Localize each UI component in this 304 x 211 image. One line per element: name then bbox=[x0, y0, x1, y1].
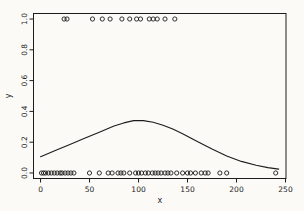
data-point-observations-y1 bbox=[173, 17, 177, 21]
data-point-observations-y0 bbox=[218, 171, 222, 175]
data-point-observations-y1 bbox=[65, 17, 69, 21]
data-point-observations-y1 bbox=[108, 17, 112, 21]
x-tick-label: 200 bbox=[229, 185, 244, 194]
y-tick-label: 0.8 bbox=[20, 44, 29, 56]
x-tick-label: 0 bbox=[38, 185, 43, 194]
data-point-observations-y0 bbox=[274, 171, 278, 175]
data-point-observations-y0 bbox=[206, 171, 210, 175]
y-tick-label: 0.2 bbox=[20, 136, 29, 148]
fitted-curve bbox=[41, 121, 279, 170]
data-point-observations-y0 bbox=[128, 171, 132, 175]
data-point-observations-y0 bbox=[97, 171, 101, 175]
scatter-plot-canvas: 0501001502002500.00.20.40.60.81.0xy bbox=[0, 0, 304, 211]
y-tick-label: 1.0 bbox=[20, 13, 29, 25]
data-point-observations-y1 bbox=[90, 17, 94, 21]
x-tick-label: 100 bbox=[131, 185, 146, 194]
y-axis-title: y bbox=[4, 93, 13, 98]
data-point-observations-y1 bbox=[100, 17, 104, 21]
x-axis-title: x bbox=[157, 196, 162, 205]
r-scatter-plot-figure: 0501001502002500.00.20.40.60.81.0xy bbox=[0, 0, 304, 211]
x-tick-label: 250 bbox=[278, 185, 293, 194]
y-tick-label: 0.4 bbox=[20, 105, 29, 117]
data-point-observations-y0 bbox=[193, 171, 197, 175]
data-point-observations-y0 bbox=[225, 171, 229, 175]
data-point-observations-y0 bbox=[72, 171, 76, 175]
data-point-observations-y1 bbox=[120, 17, 124, 21]
data-point-observations-y1 bbox=[163, 17, 167, 21]
data-point-observations-y0 bbox=[169, 171, 173, 175]
data-point-observations-y1 bbox=[128, 17, 132, 21]
data-point-observations-y0 bbox=[181, 171, 185, 175]
data-point-observations-y0 bbox=[188, 171, 192, 175]
data-point-observations-y0 bbox=[87, 171, 91, 175]
y-tick-label: 0.6 bbox=[20, 74, 29, 86]
data-point-observations-y0 bbox=[175, 171, 179, 175]
plot-box bbox=[34, 14, 287, 179]
data-point-observations-y0 bbox=[122, 171, 126, 175]
x-tick-label: 50 bbox=[85, 185, 95, 194]
y-tick-label: 0.0 bbox=[20, 167, 29, 179]
x-tick-label: 150 bbox=[180, 185, 195, 194]
